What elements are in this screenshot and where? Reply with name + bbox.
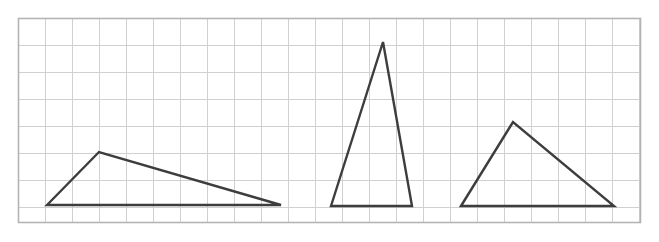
figure-panel [0, 0, 659, 242]
grid-and-triangles-canvas [0, 0, 659, 242]
